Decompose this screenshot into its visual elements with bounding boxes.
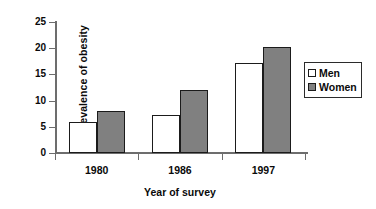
y-axis-tick-label: 25 xyxy=(6,17,46,27)
legend: MenWomen xyxy=(304,62,362,98)
bar-chart-figure: Prevalence of obesity 0510152025 1980198… xyxy=(0,0,376,209)
legend-label-men: Men xyxy=(319,68,340,79)
bar-men-1980 xyxy=(69,122,97,153)
legend-swatch-icon-men xyxy=(308,69,316,77)
bar-women-1986 xyxy=(180,90,208,153)
y-axis-tick-label: 20 xyxy=(6,43,46,53)
x-axis-tick xyxy=(138,154,139,160)
legend-item-women: Women xyxy=(308,80,357,94)
x-axis-label-1980: 1980 xyxy=(57,164,137,176)
plot-area xyxy=(55,22,305,153)
y-axis-tick-label: 5 xyxy=(6,122,46,132)
x-axis-label-1986: 1986 xyxy=(140,164,220,176)
x-axis-tick xyxy=(222,154,223,160)
bar-women-1980 xyxy=(97,111,125,153)
legend-item-men: Men xyxy=(308,66,357,80)
bar-women-1997 xyxy=(263,47,291,153)
y-axis-tick-label: 15 xyxy=(6,69,46,79)
x-axis-label-1997: 1997 xyxy=(223,164,303,176)
y-axis-tick-label: 10 xyxy=(6,96,46,106)
legend-swatch-icon-women xyxy=(308,83,316,91)
legend-label-women: Women xyxy=(319,82,357,93)
x-axis-title: Year of survey xyxy=(55,186,305,198)
bar-men-1986 xyxy=(152,115,180,153)
y-axis-tick-label: 0 xyxy=(6,148,46,158)
x-axis-tick xyxy=(305,154,306,160)
bar-men-1997 xyxy=(235,63,263,153)
x-axis-tick xyxy=(55,154,56,160)
